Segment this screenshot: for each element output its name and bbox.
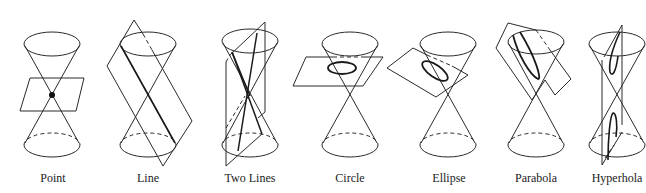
label-two-lines: Two Lines bbox=[225, 171, 276, 186]
panel-point-diagram bbox=[20, 32, 84, 157]
panel-parabola-diagram bbox=[496, 23, 571, 157]
label-circle: Circle bbox=[335, 171, 364, 186]
point-dot-icon bbox=[49, 92, 55, 98]
panel-line-diagram bbox=[107, 20, 192, 166]
label-parabola: Parabola bbox=[515, 171, 557, 186]
panel-two-lines-diagram bbox=[222, 22, 278, 166]
label-point: Point bbox=[40, 171, 65, 186]
panel-circle-diagram bbox=[293, 32, 383, 157]
panel-hyperbola-diagram bbox=[589, 25, 645, 165]
label-line: Line bbox=[137, 171, 159, 186]
label-ellipse: Ellipse bbox=[432, 171, 465, 186]
conic-sections-figure: Point Line Two Lines Circle Ellipse Para… bbox=[0, 0, 646, 193]
panel-ellipse-diagram bbox=[387, 32, 476, 157]
conic-sections-svg bbox=[0, 0, 646, 193]
label-hyperbola: Hyperhola bbox=[592, 171, 643, 186]
